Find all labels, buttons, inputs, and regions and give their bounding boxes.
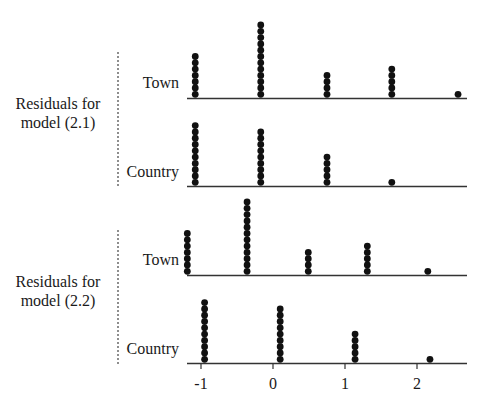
x-tick-label: -1	[194, 375, 207, 392]
data-dot	[352, 343, 359, 350]
data-dot	[305, 249, 312, 256]
data-dot	[184, 236, 191, 243]
data-dot	[201, 324, 208, 331]
data-dot	[244, 249, 251, 256]
data-dot	[257, 28, 264, 35]
data-dot	[364, 243, 371, 250]
data-dot	[424, 268, 431, 275]
data-dot	[352, 350, 359, 357]
group-label-model-2-2-line1: Residuals for	[16, 273, 102, 290]
data-dot	[192, 122, 199, 129]
data-dot	[305, 268, 312, 275]
data-dot	[244, 211, 251, 218]
data-dot	[257, 47, 264, 54]
data-dot	[244, 218, 251, 225]
data-dot	[244, 236, 251, 243]
data-dot	[277, 306, 284, 313]
series-label-town-2-2: Town	[143, 251, 179, 268]
data-dot	[192, 160, 199, 167]
data-dot	[324, 91, 331, 98]
data-dot	[324, 166, 331, 173]
series-label-country-2-2: Country	[127, 340, 179, 358]
data-dot	[192, 59, 199, 66]
data-dot	[257, 141, 264, 148]
data-dot	[184, 268, 191, 275]
x-tick-label: 2	[413, 375, 421, 392]
data-dot	[244, 268, 251, 275]
data-dot	[257, 154, 264, 161]
dot-columns	[184, 22, 462, 363]
data-dot	[184, 262, 191, 269]
data-dot	[244, 224, 251, 231]
data-dot	[257, 179, 264, 186]
data-dot	[201, 312, 208, 319]
data-dot	[324, 154, 331, 161]
data-dot	[352, 356, 359, 363]
data-dot	[192, 141, 199, 148]
data-dot	[352, 331, 359, 338]
data-dot	[257, 147, 264, 154]
data-dot	[192, 154, 199, 161]
data-dot	[388, 91, 395, 98]
data-dot	[244, 230, 251, 237]
data-dot	[257, 34, 264, 41]
data-dot	[257, 72, 264, 79]
data-dot	[257, 135, 264, 142]
data-dot	[192, 66, 199, 73]
x-axis-ticks: -1012	[194, 364, 421, 393]
data-dot	[201, 343, 208, 350]
group-label-model-2-1-line1: Residuals for	[16, 95, 102, 112]
data-dot	[201, 306, 208, 313]
group-label-model-2-2-line2: model (2.2)	[21, 292, 96, 310]
data-dot	[184, 230, 191, 237]
data-dot	[192, 72, 199, 79]
data-dot	[364, 255, 371, 262]
data-dot	[257, 91, 264, 98]
data-dot	[192, 91, 199, 98]
x-tick-label: 1	[341, 375, 349, 392]
data-dot	[257, 53, 264, 60]
data-dot	[192, 147, 199, 154]
data-dot	[201, 356, 208, 363]
data-dot	[305, 262, 312, 269]
data-dot	[388, 78, 395, 85]
data-dot	[192, 173, 199, 180]
data-dot	[324, 160, 331, 167]
data-dot	[244, 199, 251, 206]
data-dot	[192, 166, 199, 173]
data-dot	[192, 85, 199, 92]
data-dot	[388, 66, 395, 73]
data-dot	[277, 318, 284, 325]
data-dot	[184, 255, 191, 262]
data-dot	[277, 324, 284, 331]
data-dot	[257, 160, 264, 167]
data-dot	[244, 255, 251, 262]
series-label-town-2-1: Town	[143, 74, 179, 91]
data-dot	[324, 72, 331, 79]
data-dot	[427, 356, 434, 363]
data-dot	[364, 249, 371, 256]
data-dot	[324, 78, 331, 85]
data-dot	[277, 343, 284, 350]
data-dot	[388, 179, 395, 186]
data-dot	[324, 179, 331, 186]
data-dot	[184, 243, 191, 250]
data-dot	[364, 262, 371, 269]
data-dot	[277, 337, 284, 344]
data-dot	[277, 331, 284, 338]
data-dot	[192, 179, 199, 186]
data-dot	[244, 205, 251, 212]
data-dot	[257, 22, 264, 29]
data-dot	[201, 299, 208, 306]
data-dot	[257, 173, 264, 180]
x-tick-label: 0	[269, 375, 277, 392]
data-dot	[388, 85, 395, 92]
data-dot	[364, 268, 371, 275]
data-dot	[244, 243, 251, 250]
data-dot	[277, 312, 284, 319]
group-label-model-2-1-line2: model (2.1)	[21, 114, 96, 132]
residual-dot-plot: Residuals for model (2.1) Residuals for …	[0, 0, 491, 417]
data-dot	[201, 350, 208, 357]
data-dot	[192, 53, 199, 60]
data-dot	[388, 72, 395, 79]
